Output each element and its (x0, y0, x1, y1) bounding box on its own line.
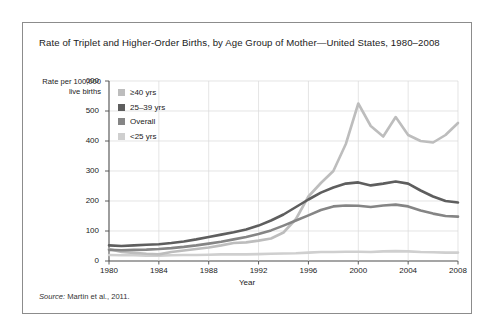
x-tick-label: 2008 (443, 266, 473, 275)
y-tick-label: 0 (73, 256, 99, 265)
x-tick-label: 1980 (94, 266, 124, 275)
x-tick-label: 1992 (244, 266, 274, 275)
x-tick-label: 2000 (343, 266, 373, 275)
y-tick-label: 200 (73, 196, 99, 205)
legend-item[interactable]: ≥40 yrs (118, 88, 156, 97)
x-tick-label: 2004 (393, 266, 423, 275)
x-tick-label: 1996 (293, 266, 323, 275)
y-tick-label: 100 (73, 226, 99, 235)
legend-swatch-icon (118, 104, 125, 111)
x-axis-label: Year (23, 278, 471, 287)
y-tick-label: 400 (73, 136, 99, 145)
legend-item[interactable]: 25–39 yrs (118, 103, 165, 112)
legend-swatch-icon (118, 118, 125, 125)
figure-panel: Rate of Triplet and Higher-Order Births,… (22, 22, 472, 314)
legend-item[interactable]: Overall (118, 117, 155, 126)
x-tick-label: 1984 (144, 266, 174, 275)
x-tick-label: 1988 (194, 266, 224, 275)
source-label: Source: (39, 292, 65, 301)
y-tick-label: 500 (73, 106, 99, 115)
legend-label: Overall (130, 117, 155, 126)
legend-swatch-icon (118, 133, 125, 140)
source-text: Martin et al., 2011. (65, 292, 129, 301)
series-line (109, 104, 458, 255)
source-note: Source: Martin et al., 2011. (39, 292, 130, 301)
legend-label: <25 yrs (130, 132, 156, 141)
legend-label: 25–39 yrs (130, 103, 165, 112)
legend-item[interactable]: <25 yrs (118, 132, 156, 141)
chart-plot-area: 0100200300400500600198019841988199219962… (23, 23, 473, 315)
legend-label: ≥40 yrs (130, 88, 156, 97)
y-tick-label: 300 (73, 166, 99, 175)
y-tick-label: 600 (73, 76, 99, 85)
series-line (109, 182, 458, 247)
legend-swatch-icon (118, 89, 125, 96)
